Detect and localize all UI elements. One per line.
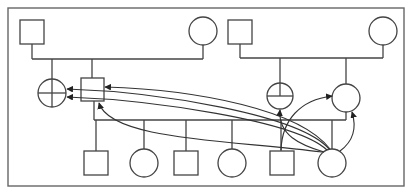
couple-right-lines: [240, 44, 383, 84]
crossed-circle-right: [267, 83, 293, 109]
male-g1-left-square: [20, 20, 44, 44]
child-5-male-square: [270, 151, 294, 175]
child-4-female-circle: [218, 149, 246, 177]
sibship-lines: [94, 101, 346, 151]
pedigree-canvas: [0, 0, 413, 196]
couple-left-lines: [32, 44, 203, 79]
female-g1-left-circle: [189, 17, 217, 45]
crossed-circle-left: [38, 79, 66, 107]
female-g2-circle: [332, 84, 360, 112]
child-3-male-square: [174, 151, 198, 175]
arrow-to-female-g2-bottom: [340, 112, 354, 151]
pedigree-diagram: [0, 0, 413, 196]
child-1-male-square: [84, 151, 108, 175]
female-g1-right-circle: [369, 17, 397, 45]
arrow-to-male-g2-right: [105, 87, 330, 149]
male-g1-right-square: [228, 20, 252, 44]
child-2-female-circle: [130, 149, 158, 177]
arrow-to-male-g2-bottom: [99, 103, 322, 152]
child-6-female-circle: [318, 149, 346, 177]
